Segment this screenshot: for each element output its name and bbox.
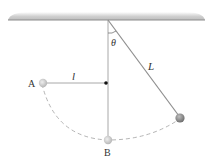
- bob-released: [175, 113, 184, 122]
- ceiling: [8, 12, 205, 20]
- label-A: A: [28, 78, 36, 89]
- pendulum-string-L: [108, 20, 179, 116]
- label-L: L: [147, 60, 154, 72]
- label-l: l: [72, 70, 75, 82]
- label-B: B: [104, 147, 111, 158]
- pendulum-diagram: θ L l A B: [0, 0, 208, 162]
- label-theta: θ: [111, 37, 116, 48]
- peg: [104, 81, 108, 85]
- swing-arc: [42, 84, 181, 140]
- bob-B: [104, 136, 112, 144]
- angle-arc: [108, 31, 116, 33]
- bob-A: [39, 79, 47, 87]
